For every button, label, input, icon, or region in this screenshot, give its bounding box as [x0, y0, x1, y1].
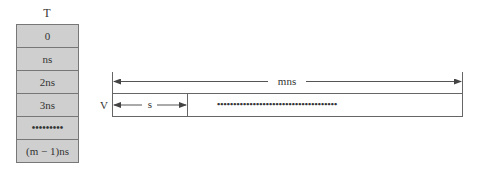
remaining-slots-ellipsis: ••••••••••••••••••••••••••••••••••••• — [217, 99, 337, 109]
slot-width-label: s — [148, 98, 152, 110]
total-span-label: mns — [278, 75, 296, 87]
row-label: V — [100, 99, 108, 111]
timeline-diagram: mns s V ••••••••••••••••••••••••••••••••… — [0, 0, 478, 172]
